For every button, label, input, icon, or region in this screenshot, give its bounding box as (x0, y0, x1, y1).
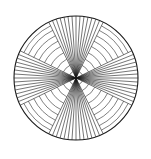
concentric-arc (88, 53, 101, 66)
concentric-arc (97, 36, 119, 58)
concentric-arc (57, 87, 67, 97)
radial-line (16, 62, 76, 78)
radial-line (76, 18, 92, 78)
concentric-arc (39, 96, 58, 115)
radial-fan-layer (14, 16, 138, 140)
concentric-arc (34, 99, 56, 121)
concentric-arc (70, 81, 73, 84)
radial-line (76, 62, 136, 78)
concentric-arc (34, 36, 56, 58)
radial-line (76, 78, 132, 105)
concentric-arc (82, 84, 88, 90)
radial-line (76, 51, 132, 78)
radial-line (76, 78, 136, 94)
concentric-arc (79, 81, 82, 84)
radial-line (20, 78, 76, 105)
radial-line (76, 78, 92, 138)
radial-line (60, 18, 76, 78)
concentric-arc (94, 41, 113, 60)
radial-line (16, 78, 76, 94)
radial-line (76, 22, 103, 78)
concentric-arc (63, 65, 69, 71)
concentric-arc (82, 65, 88, 71)
concentric-arc (85, 59, 95, 69)
radial-line (60, 78, 76, 138)
radial-line (76, 78, 103, 134)
concentric-arc (79, 72, 82, 75)
concentric-arc (63, 84, 69, 90)
concentric-arc (39, 41, 58, 60)
concentric-arc (97, 99, 119, 121)
concentric-arc (51, 53, 64, 66)
radial-line (20, 51, 76, 78)
concentric-arc (57, 59, 67, 69)
concentric-arc (85, 87, 95, 97)
concentric-arc (94, 96, 113, 115)
radial-arc-figure-svg (0, 0, 151, 159)
radial-line (49, 22, 76, 78)
concentric-arc (51, 90, 64, 103)
concentric-arc (88, 90, 101, 103)
radial-line (49, 78, 76, 134)
concentric-arc (70, 72, 73, 75)
figure-container (0, 0, 151, 159)
